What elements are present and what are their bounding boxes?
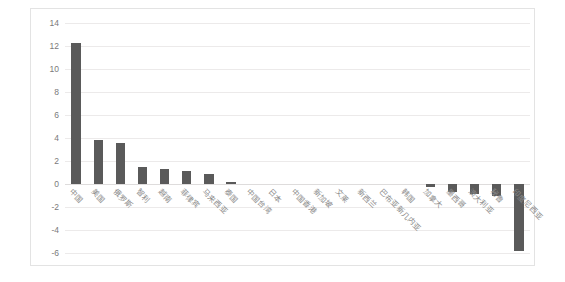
bars-group	[65, 23, 530, 253]
bar	[204, 174, 213, 184]
bar	[160, 169, 169, 184]
bar	[71, 43, 80, 184]
y-axis-tick-label: -2	[51, 203, 59, 212]
gridline: -6	[65, 253, 530, 254]
y-axis-tick-label: 12	[50, 42, 59, 51]
y-axis-tick-label: -6	[51, 249, 59, 258]
y-axis-tick-label: -4	[51, 226, 59, 235]
y-axis-tick-label: 4	[54, 134, 59, 143]
bar	[138, 167, 147, 184]
y-axis-tick-label: 2	[54, 157, 59, 166]
y-axis-tick-label: 10	[50, 65, 59, 74]
plot-area: 14121086420-2-4-6	[65, 23, 530, 253]
bar	[94, 140, 103, 184]
bar	[116, 143, 125, 184]
y-axis-tick-label: 8	[54, 88, 59, 97]
chart-container: 14121086420-2-4-6 中国美国俄罗斯智利越南菲律宾马来西亚泰国中国…	[30, 8, 535, 266]
bar	[182, 171, 191, 184]
bar	[226, 182, 235, 184]
y-axis-tick-label: 0	[54, 180, 59, 189]
y-axis-tick-label: 6	[54, 111, 59, 120]
y-axis-tick-label: 14	[50, 19, 59, 28]
